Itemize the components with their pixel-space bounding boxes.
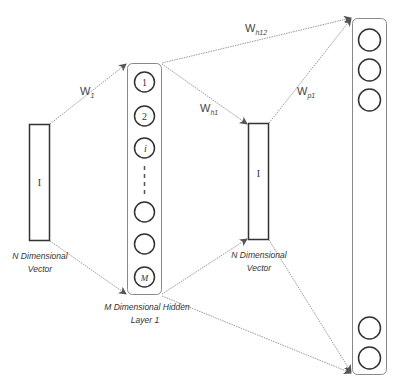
edge-input-to-hidden-bottom — [50, 241, 126, 294]
weight-label-wp1: Wp1 — [297, 85, 315, 100]
autoencoder-diagram: W1 Wh1 Wh12 Wp1 I N Dimensional Vector 1… — [0, 0, 401, 390]
input-vector-symbol: I — [38, 177, 41, 188]
weight-label-wh12: Wh12 — [245, 22, 267, 36]
edge-hidden-to-output-bottom — [162, 296, 351, 373]
hidden-node-2-label: 2 — [142, 111, 147, 122]
hidden-node-m-minus-2 — [135, 202, 155, 222]
input-vector-caption-line1: N Dimensional — [12, 251, 68, 261]
hidden-layer-caption-line1: M Dimensional Hidden — [104, 302, 190, 312]
output-vector-box — [249, 124, 269, 240]
edge-hidden-to-vector-bottom — [162, 239, 247, 294]
hidden-node-m-label: M — [140, 273, 149, 283]
output-node-1 — [359, 29, 381, 51]
hidden-node-i-label: i — [144, 143, 147, 154]
hidden-layer-caption-line2: Layer 1 — [131, 315, 160, 325]
weight-label-wh1: Wh1 — [200, 102, 218, 116]
output-node-2 — [359, 59, 381, 81]
hidden-layer-box — [128, 64, 162, 295]
edge-hidden-to-output-top — [162, 18, 351, 63]
output-vector-caption-line1: N Dimensional — [231, 250, 287, 260]
output-vector-symbol: I — [257, 168, 260, 179]
output-node-n — [359, 347, 381, 369]
weight-label-w1: W1 — [80, 85, 94, 99]
input-vector-caption-line2: Vector — [28, 264, 53, 274]
connectors — [50, 18, 351, 373]
edge-hidden-to-vector-top — [162, 64, 247, 124]
output-node-n-minus-1 — [359, 317, 381, 339]
output-vector-caption-line2: Vector — [247, 263, 272, 273]
output-node-3 — [359, 89, 381, 111]
hidden-node-1-label: 1 — [142, 77, 147, 88]
hidden-node-m-minus-1 — [135, 234, 155, 254]
